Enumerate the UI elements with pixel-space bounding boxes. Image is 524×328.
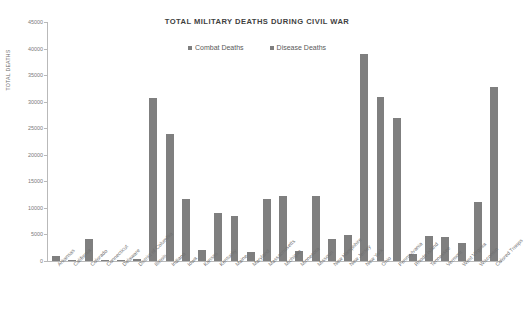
x-axis-label-slot: Iowa xyxy=(178,262,194,328)
bar-slot xyxy=(340,22,356,261)
y-axis-tick-label: 10000 xyxy=(28,205,43,211)
bar-slot xyxy=(437,22,453,261)
bar[interactable] xyxy=(393,118,401,261)
bar-slot xyxy=(372,22,388,261)
x-axis-labels: ArkansasCaliforniaColoradoConnecticutDel… xyxy=(48,262,502,328)
x-axis-label-slot: Colored Troops xyxy=(486,262,502,328)
x-axis-label-slot: Michigan xyxy=(275,262,291,328)
y-axis-title: TOTAL DEATHS xyxy=(5,35,11,105)
x-axis-label-slot: Kansas xyxy=(194,262,210,328)
plot-area: 4500040000350003000025000200001500010000… xyxy=(47,22,502,261)
y-axis-tick-mark xyxy=(44,49,47,50)
y-axis-tick-label: 25000 xyxy=(28,125,43,131)
y-axis-tick-label: 0 xyxy=(40,258,43,264)
bar-slot xyxy=(226,22,242,261)
y-axis-tick-label: 15000 xyxy=(28,178,43,184)
y-axis-tick-mark xyxy=(44,75,47,76)
y-axis-tick-mark xyxy=(44,234,47,235)
bar-slot xyxy=(162,22,178,261)
x-axis-label-slot: New York xyxy=(356,262,372,328)
y-axis-tick-mark xyxy=(44,22,47,23)
x-axis-label-slot: Kentucky xyxy=(210,262,226,328)
bar-series-combat-deaths xyxy=(48,22,502,261)
bar-slot xyxy=(210,22,226,261)
y-axis-tick-mark xyxy=(44,261,47,262)
bar-slot xyxy=(145,22,161,261)
x-axis-label-slot: Connecticut xyxy=(97,262,113,328)
bar-slot xyxy=(308,22,324,261)
x-axis-label-slot: Maryland xyxy=(243,262,259,328)
bar-slot xyxy=(129,22,145,261)
bar[interactable] xyxy=(490,87,498,261)
x-axis-label-slot: Vermont xyxy=(437,262,453,328)
y-axis-tick-mark xyxy=(44,208,47,209)
x-axis-label-slot: Pennsylvania xyxy=(389,262,405,328)
bar-slot xyxy=(243,22,259,261)
x-axis-label-slot: District of Columbia xyxy=(129,262,145,328)
x-axis-label-slot: Missouri xyxy=(307,262,323,328)
y-axis-tick-label: 35000 xyxy=(28,72,43,78)
x-axis-label-slot: Illinois xyxy=(145,262,161,328)
bar-slot xyxy=(48,22,64,261)
bar-slot xyxy=(405,22,421,261)
bar-slot xyxy=(97,22,113,261)
x-axis-label-slot: Wisconsin xyxy=(470,262,486,328)
bar[interactable] xyxy=(377,97,385,261)
x-axis-label-slot: Minnesota xyxy=(291,262,307,328)
x-axis-label-slot: Arkansas xyxy=(48,262,64,328)
x-axis-label-slot: West Virginia xyxy=(453,262,469,328)
bar-slot xyxy=(324,22,340,261)
x-axis-label-slot: Indiana xyxy=(162,262,178,328)
x-axis-label-slot: Ohio xyxy=(372,262,388,328)
bar-slot xyxy=(64,22,80,261)
y-axis-tick-label: 40000 xyxy=(28,46,43,52)
bar[interactable] xyxy=(149,98,157,261)
x-axis-label-slot: Rhode Island xyxy=(405,262,421,328)
y-axis-tick-mark xyxy=(44,181,47,182)
bar-slot xyxy=(470,22,486,261)
bar-slot xyxy=(259,22,275,261)
x-axis-label-slot: California xyxy=(64,262,80,328)
bar-slot xyxy=(275,22,291,261)
bar-slot xyxy=(356,22,372,261)
bar-slot xyxy=(389,22,405,261)
y-axis-tick-mark xyxy=(44,155,47,156)
x-axis-label-slot: Massachusetts xyxy=(259,262,275,328)
y-axis-tick-mark xyxy=(44,128,47,129)
y-axis-tick-label: 30000 xyxy=(28,99,43,105)
x-axis-label-slot: Maine xyxy=(226,262,242,328)
bar-slot xyxy=(80,22,96,261)
bar-slot xyxy=(421,22,437,261)
bar[interactable] xyxy=(360,54,368,261)
y-axis-tick-mark xyxy=(44,102,47,103)
y-axis-tick-label: 5000 xyxy=(31,231,43,237)
x-axis-label-slot: Colorado xyxy=(80,262,96,328)
bar-slot xyxy=(453,22,469,261)
x-axis-label-slot: New Jersey xyxy=(340,262,356,328)
bar-slot xyxy=(178,22,194,261)
bar-slot xyxy=(291,22,307,261)
bar-slot xyxy=(113,22,129,261)
bar-slot xyxy=(486,22,502,261)
x-axis-label-slot: Delaware xyxy=(113,262,129,328)
bar-slot xyxy=(194,22,210,261)
x-axis-label-slot: New Hampshire xyxy=(324,262,340,328)
y-axis-tick-label: 45000 xyxy=(28,19,43,25)
y-axis-tick-label: 20000 xyxy=(28,152,43,158)
bar[interactable] xyxy=(166,134,174,261)
x-axis-label-slot: Tennessee xyxy=(421,262,437,328)
